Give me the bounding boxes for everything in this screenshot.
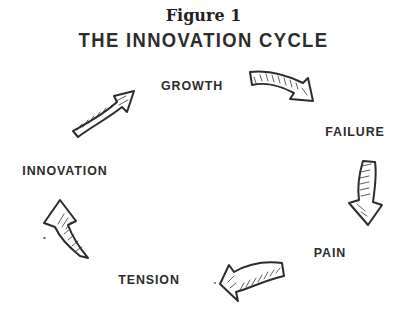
arrow-pain-to-tension-icon	[216, 260, 288, 306]
stage-label-failure: FAILURE	[309, 124, 401, 139]
stage-label-growth: GROWTH	[146, 78, 238, 93]
innovation-cycle-figure: Figure 1 THE INNOVATION CYCLE GROWTH FAI…	[0, 0, 407, 314]
figure-title: THE INNOVATION CYCLE	[16, 29, 390, 52]
stray-ink-dot	[43, 237, 46, 239]
stage-label-pain: PAIN	[284, 245, 376, 260]
stage-label-innovation: INNOVATION	[14, 163, 115, 178]
arrow-growth-to-failure-icon	[245, 70, 317, 104]
figure-caption: Figure 1	[0, 6, 407, 25]
stage-label-tension: TENSION	[103, 272, 195, 287]
arrow-tension-to-innovation-icon	[42, 198, 90, 262]
arrow-innovation-to-growth-icon	[69, 87, 137, 137]
stray-ink-dot	[214, 282, 216, 284]
arrow-failure-to-pain-icon	[344, 156, 390, 228]
